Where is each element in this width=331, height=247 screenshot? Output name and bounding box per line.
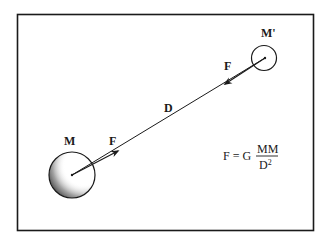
label-force-m-prime: F bbox=[224, 59, 231, 73]
mass-m bbox=[49, 152, 95, 198]
formula-denominator-base: D bbox=[259, 158, 268, 172]
formula-denominator-exp: 2 bbox=[268, 158, 272, 167]
formula-lhs: F = G bbox=[223, 149, 251, 163]
gravitation-diagram: M M' F F D F = G MM D2 bbox=[0, 0, 331, 247]
mass-m-prime-center-dot bbox=[264, 57, 266, 59]
mass-m-prime bbox=[252, 46, 277, 71]
label-m: M bbox=[64, 134, 75, 148]
label-distance: D bbox=[164, 101, 173, 115]
label-force-m: F bbox=[109, 134, 116, 148]
gravitation-formula: F = G MM D2 bbox=[223, 142, 279, 172]
label-m-prime: M' bbox=[261, 26, 276, 40]
formula-denominator: D2 bbox=[259, 158, 272, 172]
formula-numerator: MM bbox=[257, 142, 279, 156]
mass-m-center-dot bbox=[71, 174, 73, 176]
